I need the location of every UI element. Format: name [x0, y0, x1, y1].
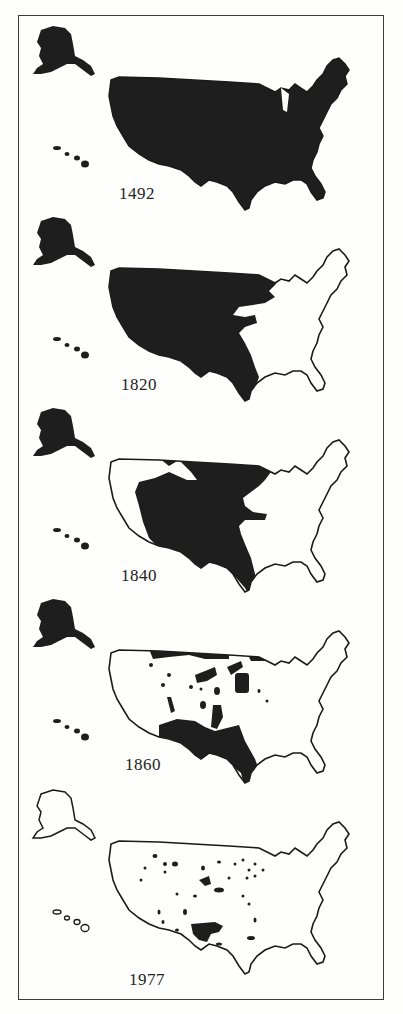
year-label: 1840 — [121, 566, 157, 586]
map-panel-1860: 1860 — [19, 593, 385, 788]
map-1820 — [19, 211, 385, 406]
year-label: 1860 — [125, 755, 161, 775]
map-panel-1977: 1977 — [19, 784, 385, 979]
figure-frame: 1492 1820 1840 — [18, 15, 384, 1000]
map-1492 — [19, 20, 385, 215]
hawaii-outline — [53, 910, 89, 932]
year-label: 1820 — [121, 375, 157, 395]
map-1860 — [19, 593, 385, 788]
alaska-outline — [33, 790, 95, 840]
year-label: 1977 — [129, 970, 165, 990]
map-1977 — [19, 784, 385, 979]
hawaii-region — [53, 337, 89, 359]
hawaii-region — [53, 719, 89, 741]
year-label: 1492 — [119, 184, 155, 204]
map-panel-1492: 1492 — [19, 20, 385, 215]
hawaii-region — [53, 146, 89, 168]
map-panel-1840: 1840 — [19, 402, 385, 597]
alaska-region — [33, 26, 95, 76]
continental-us-outline — [109, 822, 349, 974]
alaska-region — [33, 408, 95, 458]
alaska-region — [33, 599, 95, 649]
alaska-region — [33, 217, 95, 267]
map-1840 — [19, 402, 385, 597]
hawaii-region — [53, 528, 89, 550]
map-panel-1820: 1820 — [19, 211, 385, 406]
